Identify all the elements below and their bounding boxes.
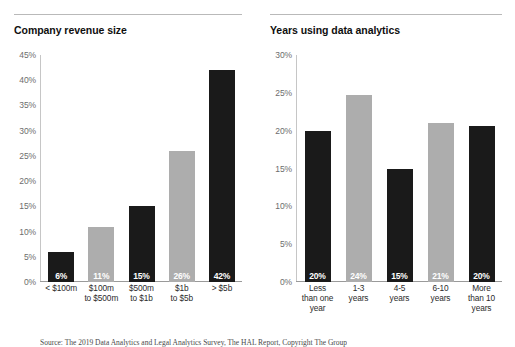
- bar-slot: 20%: [461, 55, 502, 282]
- x-axis-category-label: Morethan 10years: [461, 283, 502, 313]
- bar-slot: 42%: [202, 55, 242, 282]
- bar[interactable]: 11%: [88, 227, 114, 282]
- y-axis-tick-label: 15%: [19, 201, 36, 211]
- y-axis-tick-label: 15%: [275, 164, 292, 174]
- x-axis-category-label: < $100m: [41, 283, 81, 303]
- bar-value-label: 11%: [93, 272, 109, 283]
- x-axis-category-label: 6-10years: [420, 283, 461, 313]
- x-axis-categories-right: Lessthan oneyear1-3years4-5years6-10year…: [297, 283, 502, 313]
- y-axis-tick-label: 20%: [19, 176, 36, 186]
- y-axis-tick-label: 25%: [19, 151, 36, 161]
- y-axis-right: 30%25%20%15%10%5%0%: [270, 55, 296, 282]
- page-title: Years using data analytics: [270, 24, 502, 36]
- bar-slot: 20%: [297, 55, 338, 282]
- y-axis-left: 45%40%35%30%25%20%15%10%5%0%: [14, 55, 40, 282]
- bar[interactable]: 20%: [469, 126, 495, 282]
- x-axis-category-label: 4-5years: [379, 283, 420, 313]
- bar-slot: 11%: [81, 55, 121, 282]
- bar-slot: 24%: [338, 55, 379, 282]
- bar[interactable]: 42%: [209, 70, 235, 282]
- bar-value-label: 42%: [214, 272, 230, 283]
- bar-value-label: 24%: [350, 272, 366, 283]
- bar[interactable]: 15%: [387, 169, 413, 283]
- panel-top-rule: [14, 14, 242, 15]
- y-axis-tick-label: 45%: [19, 50, 36, 60]
- page-title: Company revenue size: [14, 24, 242, 36]
- bar[interactable]: 20%: [305, 131, 331, 282]
- x-axis-category-label: $100mto $500m: [81, 283, 121, 303]
- y-axis-tick-label: 40%: [19, 75, 36, 85]
- bar[interactable]: 21%: [428, 123, 454, 282]
- panel-top-rule: [270, 14, 502, 15]
- bar-group-right: 20%24%15%21%20%: [297, 55, 502, 282]
- y-axis-tick-label: 5%: [280, 239, 292, 249]
- bar[interactable]: 6%: [48, 252, 74, 282]
- y-axis-tick-label: 20%: [275, 126, 292, 136]
- x-axis-category-label: Lessthan oneyear: [297, 283, 338, 313]
- source-footnote: Source: The 2019 Data Analytics and Lega…: [40, 338, 347, 347]
- bar-group-left: 6%11%15%26%42%: [41, 55, 242, 282]
- y-axis-tick-label: 35%: [19, 100, 36, 110]
- y-axis-tick-label: 0%: [24, 277, 36, 287]
- bar-value-label: 21%: [432, 272, 448, 283]
- plot-area-right: 30%25%20%15%10%5%0% 20%24%15%21%20%: [270, 55, 502, 282]
- y-axis-tick-label: 10%: [19, 227, 36, 237]
- bar-slot: 15%: [379, 55, 420, 282]
- bar[interactable]: 15%: [129, 206, 155, 282]
- y-axis-tick-label: 5%: [24, 252, 36, 262]
- bar-value-label: 15%: [133, 272, 149, 283]
- bar-value-label: 20%: [473, 272, 489, 283]
- bar-value-label: 20%: [309, 272, 325, 283]
- chart-panel-years-using-data-analytics: Years using data analytics 30%25%20%15%1…: [270, 14, 502, 324]
- plot-area-left: 45%40%35%30%25%20%15%10%5%0% 6%11%15%26%…: [14, 55, 242, 282]
- bar-slot: 6%: [41, 55, 81, 282]
- y-axis-tick-label: 30%: [19, 126, 36, 136]
- bar[interactable]: 24%: [346, 95, 372, 282]
- y-axis-tick-label: 30%: [275, 50, 292, 60]
- figure: Company revenue size 45%40%35%30%25%20%1…: [0, 0, 515, 347]
- bar-value-label: 26%: [173, 272, 189, 283]
- y-axis-tick-label: 0%: [280, 277, 292, 287]
- bar[interactable]: 26%: [169, 151, 195, 282]
- bar-slot: 15%: [121, 55, 161, 282]
- bar-value-label: 6%: [55, 272, 67, 283]
- x-axis-category-label: $500mto $1b: [121, 283, 161, 303]
- y-axis-tick-label: 10%: [275, 201, 292, 211]
- x-axis-category-label: 1-3years: [338, 283, 379, 313]
- x-axis-categories-left: < $100m$100mto $500m$500mto $1b$1bto $5b…: [41, 283, 242, 303]
- chart-panel-company-revenue-size: Company revenue size 45%40%35%30%25%20%1…: [14, 14, 242, 324]
- bar-slot: 26%: [162, 55, 202, 282]
- x-axis-category-label: > $5b: [202, 283, 242, 303]
- y-axis-tick-label: 25%: [275, 88, 292, 98]
- bar-slot: 21%: [420, 55, 461, 282]
- x-axis-category-label: $1bto $5b: [162, 283, 202, 303]
- bar-value-label: 15%: [391, 272, 407, 283]
